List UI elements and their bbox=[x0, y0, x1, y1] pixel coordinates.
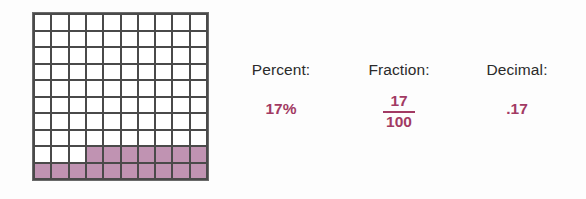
grid-cell bbox=[173, 65, 188, 80]
grid-cell bbox=[191, 15, 206, 30]
grid-cell-shaded bbox=[87, 147, 102, 162]
grid-cell bbox=[173, 131, 188, 146]
grid-cell bbox=[35, 131, 50, 146]
grid-cell bbox=[173, 114, 188, 129]
grid-cell bbox=[87, 98, 102, 113]
grid-cell bbox=[52, 32, 67, 47]
grid-cell bbox=[156, 15, 171, 30]
grid-cell bbox=[173, 81, 188, 96]
grid-cell-shaded bbox=[156, 147, 171, 162]
grid-cell bbox=[104, 48, 119, 63]
worksheet-canvas: Percent: 17% Fraction: 17 100 Decimal: .… bbox=[0, 0, 586, 199]
grid-cell bbox=[191, 81, 206, 96]
grid-cell bbox=[104, 81, 119, 96]
grid-cell bbox=[156, 32, 171, 47]
grid-cell-shaded bbox=[122, 164, 137, 179]
percent-value: 17% bbox=[228, 100, 334, 118]
grid-cell bbox=[139, 15, 154, 30]
fraction-column: Fraction: 17 100 bbox=[346, 61, 452, 131]
grid-cell bbox=[70, 81, 85, 96]
grid-cell-shaded bbox=[104, 164, 119, 179]
grid-cell bbox=[139, 114, 154, 129]
grid-cell bbox=[191, 114, 206, 129]
grid-cell bbox=[87, 131, 102, 146]
grid-cell bbox=[52, 98, 67, 113]
hundred-grid-container bbox=[32, 12, 209, 181]
grid-cell bbox=[156, 131, 171, 146]
fraction-numerator: 17 bbox=[383, 93, 415, 109]
grid-cell bbox=[87, 32, 102, 47]
grid-cell bbox=[104, 32, 119, 47]
grid-cell bbox=[52, 15, 67, 30]
grid-cell bbox=[52, 48, 67, 63]
fraction-denominator: 100 bbox=[383, 114, 415, 130]
grid-cell bbox=[104, 65, 119, 80]
grid-cell-shaded bbox=[104, 147, 119, 162]
grid-cell bbox=[139, 48, 154, 63]
grid-cell bbox=[173, 32, 188, 47]
grid-cell bbox=[70, 131, 85, 146]
percent-column: Percent: 17% bbox=[228, 61, 334, 118]
grid-cell bbox=[191, 65, 206, 80]
grid-cell bbox=[139, 81, 154, 96]
grid-cell-shaded bbox=[35, 164, 50, 179]
grid-cell bbox=[35, 114, 50, 129]
grid-cell bbox=[139, 65, 154, 80]
grid-cell-shaded bbox=[122, 147, 137, 162]
grid-cell bbox=[70, 98, 85, 113]
grid-cell bbox=[156, 114, 171, 129]
grid-cell bbox=[173, 98, 188, 113]
grid-cell bbox=[156, 81, 171, 96]
grid-cell bbox=[191, 32, 206, 47]
decimal-header: Decimal: bbox=[464, 61, 570, 79]
grid-cell bbox=[35, 81, 50, 96]
grid-cell bbox=[87, 48, 102, 63]
grid-cell bbox=[70, 32, 85, 47]
grid-cell bbox=[87, 81, 102, 96]
percent-header: Percent: bbox=[228, 61, 334, 79]
grid-cell-shaded bbox=[139, 164, 154, 179]
grid-cell bbox=[35, 15, 50, 30]
grid-cell-shaded bbox=[156, 164, 171, 179]
decimal-column: Decimal: .17 bbox=[464, 61, 570, 118]
grid-cell bbox=[122, 114, 137, 129]
grid-cell bbox=[70, 65, 85, 80]
grid-cell bbox=[122, 32, 137, 47]
grid-cell bbox=[35, 48, 50, 63]
grid-cell bbox=[52, 65, 67, 80]
grid-cell bbox=[70, 48, 85, 63]
grid-cell bbox=[122, 48, 137, 63]
grid-cell bbox=[52, 114, 67, 129]
grid-cell bbox=[87, 65, 102, 80]
grid-cell bbox=[35, 98, 50, 113]
grid-cell bbox=[87, 114, 102, 129]
grid-cell bbox=[122, 81, 137, 96]
decimal-value: .17 bbox=[464, 100, 570, 118]
grid-cell bbox=[191, 131, 206, 146]
grid-cell-shaded bbox=[173, 147, 188, 162]
grid-cell bbox=[139, 98, 154, 113]
hundred-grid bbox=[32, 12, 209, 181]
grid-cell bbox=[122, 131, 137, 146]
grid-cell bbox=[139, 131, 154, 146]
grid-cell bbox=[70, 114, 85, 129]
grid-cell bbox=[156, 65, 171, 80]
grid-cell-shaded bbox=[191, 147, 206, 162]
grid-cell bbox=[52, 131, 67, 146]
grid-cell bbox=[35, 32, 50, 47]
grid-cell bbox=[104, 131, 119, 146]
grid-cell bbox=[104, 98, 119, 113]
grid-cell bbox=[156, 98, 171, 113]
grid-cell bbox=[70, 147, 85, 162]
grid-cell bbox=[52, 147, 67, 162]
fraction-display: 17 100 bbox=[383, 93, 415, 131]
grid-cell bbox=[35, 65, 50, 80]
grid-cell bbox=[35, 147, 50, 162]
grid-cell bbox=[173, 48, 188, 63]
grid-cell-shaded bbox=[87, 164, 102, 179]
grid-cell bbox=[104, 15, 119, 30]
grid-cell-shaded bbox=[173, 164, 188, 179]
grid-cell bbox=[122, 65, 137, 80]
grid-cell bbox=[191, 98, 206, 113]
grid-cell bbox=[104, 114, 119, 129]
